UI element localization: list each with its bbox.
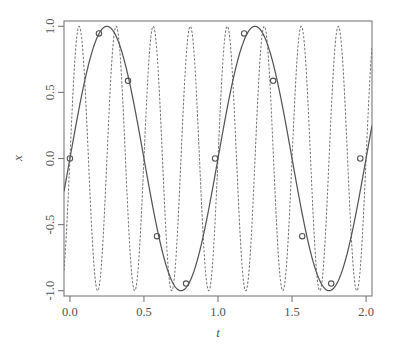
figure-background [0, 0, 403, 347]
x-tick-label: 0.0 [62, 305, 78, 319]
y-tick-label: -0.5 [43, 215, 57, 235]
aliasing-sine-plot: 0.00.51.01.52.0 -1.0-0.50.00.51.0 t x [0, 0, 403, 347]
y-tick-label: -1.0 [43, 281, 57, 301]
x-axis-title: t [216, 325, 220, 340]
x-tick-label: 0.5 [136, 305, 152, 319]
x-tick-label: 2.0 [358, 305, 374, 319]
y-tick-label: 0.0 [43, 151, 57, 167]
y-tick-label: 0.5 [43, 85, 57, 101]
chart-figure: 0.00.51.01.52.0 -1.0-0.50.00.51.0 t x [0, 0, 403, 347]
y-tick-label: 1.0 [43, 18, 57, 34]
y-axis-title: x [10, 155, 25, 162]
x-tick-label: 1.5 [284, 305, 300, 319]
x-tick-label: 1.0 [210, 305, 226, 319]
